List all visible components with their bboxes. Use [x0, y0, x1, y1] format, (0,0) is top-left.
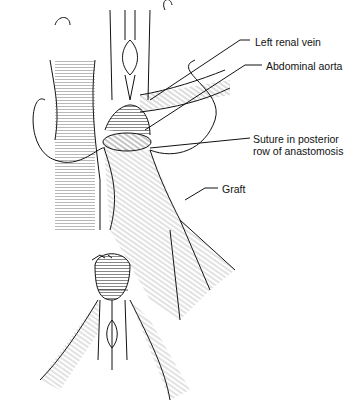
- lower-clamp: [98, 300, 127, 370]
- leader-suture: [150, 138, 250, 148]
- leader-graft: [185, 188, 218, 200]
- upper-clamp: [110, 10, 150, 100]
- label-left-renal-vein: Left renal vein: [255, 36, 321, 48]
- label-suture-line2: row of anastomosis: [253, 145, 343, 157]
- label-graft: Graft: [222, 183, 245, 195]
- lower-stump: [95, 254, 130, 300]
- label-suture-line1: Suture in posterior: [253, 133, 339, 145]
- label-abdominal-aorta: Abdominal aorta: [266, 60, 342, 72]
